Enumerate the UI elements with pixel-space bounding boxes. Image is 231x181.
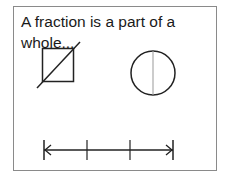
circle-divided-vertical: [131, 51, 175, 95]
square-divided-diagonal: [37, 42, 80, 88]
fraction-illustrations: [0, 0, 231, 181]
number-line: [44, 140, 173, 160]
